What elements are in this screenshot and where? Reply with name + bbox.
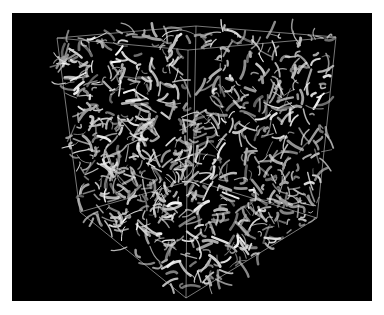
- vortex-tube: [151, 137, 159, 141]
- vortex-tube: [305, 182, 314, 184]
- vortex-tube: [235, 254, 237, 263]
- vortex-tube: [266, 176, 275, 180]
- vortex-tube: [118, 146, 126, 152]
- vortex-tube: [215, 93, 219, 97]
- vortex-tube: [121, 227, 124, 241]
- vortex-tube: [176, 172, 179, 182]
- vortex-tube: [135, 54, 142, 56]
- vortex-tube: [242, 131, 245, 138]
- vortex-tube: [309, 211, 313, 213]
- vortex-tube: [143, 211, 145, 219]
- vortex-tube: [105, 221, 112, 237]
- vortex-tube: [288, 132, 294, 133]
- vortex-tube: [270, 241, 276, 243]
- vortex-tube: [147, 85, 149, 91]
- vortex-tube: [118, 40, 127, 42]
- vortex-tube: [187, 232, 197, 238]
- vortex-tube: [200, 173, 212, 174]
- vortex-tube: [150, 246, 159, 261]
- vortex-tube: [235, 122, 239, 129]
- vortex-tube: [166, 138, 175, 146]
- vortex-tube: [265, 238, 281, 239]
- vortex-tube: [88, 38, 95, 40]
- vortex-tube: [300, 206, 304, 211]
- vortex-tube: [110, 94, 112, 102]
- vortex-tube: [154, 204, 162, 206]
- vortex-tube: [171, 284, 174, 293]
- vortex-tube: [110, 122, 112, 129]
- vortex-tube: [112, 61, 121, 62]
- vortex-tube: [129, 79, 140, 82]
- vortex-tube: [259, 99, 260, 111]
- vortex-tube: [152, 44, 158, 46]
- vortex-tube: [204, 282, 209, 283]
- vortex-tube: [142, 104, 151, 109]
- vortex-tube: [218, 271, 220, 289]
- vortex-tube: [181, 254, 197, 259]
- vortex-tube: [324, 75, 330, 77]
- vortex-tube: [279, 221, 285, 223]
- vortex-tube: [319, 66, 334, 72]
- vortex-tube: [66, 31, 68, 42]
- vortex-tube: [162, 151, 170, 162]
- vortex-tube: [92, 84, 103, 85]
- vortex-tube: [303, 155, 311, 159]
- vortex-tube: [250, 52, 251, 57]
- vortex-tube: [213, 213, 230, 216]
- vortex-tube: [236, 81, 240, 85]
- vortex-tube: [249, 153, 255, 154]
- vortex-tube: [94, 195, 99, 200]
- vortex-tube: [244, 103, 248, 106]
- vortex-tube: [207, 133, 216, 137]
- vortex-tube: [96, 183, 100, 189]
- vortex-tube: [121, 23, 134, 32]
- vortex-tube: [287, 219, 290, 224]
- vortex-tube: [77, 155, 89, 163]
- vortex-tube: [287, 230, 291, 233]
- vortex-tube: [294, 177, 299, 179]
- vortex-tube: [118, 185, 128, 192]
- vortex-tube: [126, 146, 129, 162]
- vortex-tube: [138, 161, 142, 170]
- vortex-tube: [216, 114, 227, 115]
- vortex-tube: [311, 59, 320, 65]
- vortex-tube: [163, 49, 166, 55]
- vortex-tube: [206, 41, 211, 43]
- vortex-tube: [153, 265, 162, 268]
- vortex-tube: [240, 90, 245, 96]
- vortex-tube: [281, 182, 288, 184]
- vortex-tube: [77, 162, 81, 171]
- vortex-tube: [198, 203, 202, 204]
- vortex-tube: [90, 155, 93, 159]
- vortex-tube: [203, 250, 210, 253]
- vortex-tube: [86, 66, 89, 76]
- vortex-tube: [322, 55, 330, 57]
- vortex-tube: [307, 85, 308, 94]
- vortex-tube: [281, 56, 289, 60]
- vortex-tube: [127, 136, 132, 139]
- vortex-tube: [214, 264, 219, 265]
- vortex-tube: [109, 207, 119, 212]
- vortex-tube: [85, 176, 89, 179]
- vortex-tube: [161, 40, 171, 44]
- vortex-tube: [269, 213, 275, 224]
- vortex-tube: [230, 252, 235, 254]
- vortex-tube: [224, 25, 227, 30]
- vortex-tube: [291, 115, 298, 125]
- vortex-tube: [152, 72, 158, 86]
- vortex-tube: [93, 137, 98, 141]
- vortex-tube: [220, 76, 221, 93]
- vortex-tube: [122, 65, 124, 69]
- vortex-tube: [174, 192, 177, 196]
- vortex-tube: [230, 214, 237, 230]
- visualization-panel: [12, 13, 372, 301]
- vortex-tube: [300, 224, 305, 226]
- vortex-tube: [242, 37, 253, 42]
- vortex-tube: [272, 46, 278, 59]
- vortex-tube: [98, 124, 107, 125]
- vortex-tube: [265, 243, 273, 248]
- vortex-tube: [73, 149, 89, 153]
- vortex-tube: [203, 240, 217, 242]
- vortex-tube: [298, 94, 299, 98]
- vortex-tube: [239, 134, 241, 147]
